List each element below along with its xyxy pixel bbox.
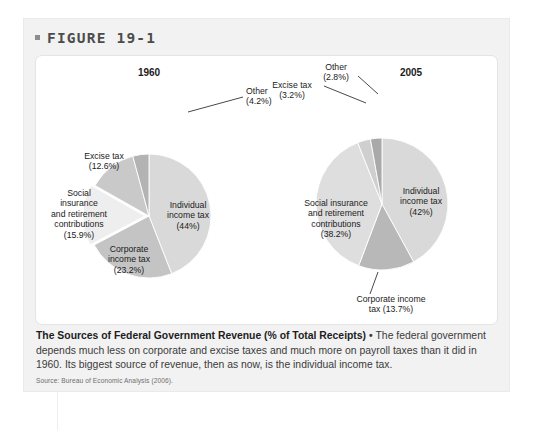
figure-header: FIGURE 19-1 [35, 30, 156, 46]
figure-number-label: FIGURE 19-1 [47, 30, 156, 46]
leader-line-other [358, 76, 378, 94]
slice-label-other: Other(2.8%) [323, 62, 349, 82]
caption-source: Source: Bureau of Economic Analysis (200… [36, 377, 173, 384]
square-bullet-icon [35, 35, 40, 40]
slice-label-corporate-income-tax: Corporate incometax (13.7%) [356, 294, 425, 314]
pie-chart-2005: 2005Individualincome tax(42%)Social insu… [272, 62, 448, 314]
figure-caption: The Sources of Federal Government Revenu… [36, 329, 498, 373]
slice-label-other: Other(4.2%) [246, 86, 272, 106]
leader-line-corporate-income-tax [370, 272, 378, 294]
caption-title: The Sources of Federal Government Revenu… [36, 330, 366, 341]
slice-label-excise-tax: Excise tax(12.6%) [84, 151, 124, 171]
chart-title-2005: 2005 [400, 67, 423, 78]
leader-line-excise-tax [324, 86, 366, 103]
caption-separator: • [366, 330, 375, 341]
leader-line-other [188, 97, 243, 112]
chart-title-1960: 1960 [138, 67, 161, 78]
figure-panel: FIGURE 19-1 1960Individualincome tax(44%… [23, 18, 510, 392]
pie-charts-svg: 1960Individualincome tax(44%)Corporatein… [36, 56, 498, 325]
chart-card: 1960Individualincome tax(44%)Corporatein… [35, 55, 498, 325]
slice-label-excise-tax: Excise tax(3.2%) [272, 80, 312, 100]
figure-page: FIGURE 19-1 1960Individualincome tax(44%… [0, 0, 533, 430]
pie-chart-1960: 1960Individualincome tax(44%)Corporatein… [51, 67, 272, 278]
